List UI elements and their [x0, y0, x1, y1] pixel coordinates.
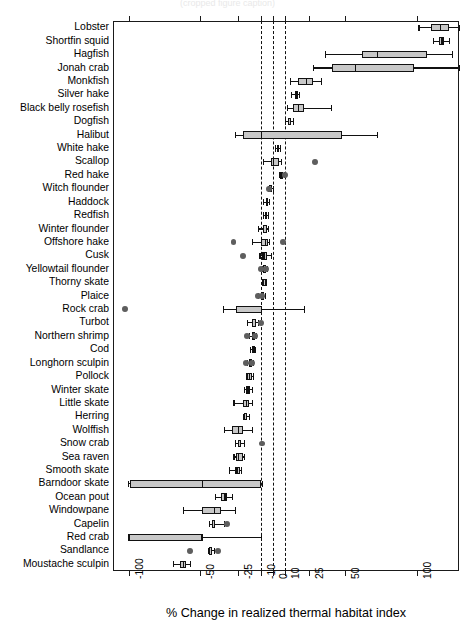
plot-frame — [113, 21, 459, 571]
x-tick-mark--50 — [200, 16, 201, 21]
x-tick-mark-0 — [273, 571, 274, 576]
median-line — [265, 279, 266, 287]
whisker-cap — [252, 427, 253, 433]
y-axis-label-sea-raven: Sea raven — [62, 452, 109, 462]
whisker-cap — [241, 467, 242, 473]
whisker-cap — [235, 440, 236, 446]
median-line — [183, 561, 184, 569]
y-axis-label-winter-skate: Winter skate — [51, 385, 109, 395]
median-line — [261, 131, 262, 139]
whisker-cap — [244, 440, 245, 446]
median-line — [440, 24, 441, 32]
y-axis-label-silver-hake: Silver hake — [58, 89, 109, 99]
median-line — [263, 252, 264, 260]
x-tick-mark--25 — [238, 571, 239, 576]
median-line — [247, 386, 248, 394]
outlier-point — [259, 293, 265, 299]
y-axis-label-little-skate: Little skate — [59, 398, 109, 408]
y-axis-label-pollock: Pollock — [76, 371, 110, 381]
y-axis-label-moustache-sculpin: Moustache sculpin — [23, 559, 109, 569]
x-tick-label--50: -50 — [205, 564, 216, 579]
median-line — [240, 440, 241, 448]
whisker-cap — [233, 400, 234, 406]
whisker-cap — [268, 212, 269, 218]
median-line — [238, 453, 239, 461]
x-tick-mark-25 — [309, 16, 310, 21]
y-axis-label-yellowtail-flounder: Yellowtail flounder — [26, 264, 109, 274]
whisker-cap — [261, 534, 262, 540]
y-axis-label-snow-crab: Snow crab — [60, 438, 109, 448]
whisker-cap — [262, 481, 263, 487]
y-axis-label-longhorn-sculpin: Longhorn sculpin — [30, 358, 109, 368]
y-axis-label-offshore-hake: Offshore hake — [44, 237, 109, 247]
y-axis-label-red-hake: Red hake — [65, 170, 109, 180]
y-axis-label-cod: Cod — [90, 344, 109, 354]
outlier-point — [258, 320, 264, 326]
x-tick-mark-50 — [345, 571, 346, 576]
whisker-cap — [209, 521, 210, 527]
y-axis-label-barndoor-skate: Barndoor skate — [39, 478, 109, 488]
median-line — [246, 413, 247, 421]
median-line — [202, 534, 203, 542]
median-line — [249, 373, 250, 381]
whisker-cap — [287, 105, 288, 111]
whisker-cap — [235, 132, 236, 138]
median-line — [266, 225, 267, 233]
y-axis-label-thorny-skate: Thorny skate — [49, 277, 109, 287]
y-axis-label-monkfish: Monkfish — [67, 76, 109, 86]
median-line — [298, 104, 299, 112]
whisker-cap — [229, 467, 230, 473]
y-axis-label-northern-shrimp: Northern shrimp — [35, 331, 110, 341]
whisker-cap — [331, 105, 332, 111]
y-axis-label-jonah-crab: Jonah crab — [58, 63, 109, 73]
whisker-cap — [449, 38, 450, 44]
whisker-cap — [223, 306, 224, 312]
outlier-point — [266, 186, 272, 192]
y-axis-label-herring: Herring — [75, 411, 109, 421]
whisker-cap — [224, 427, 225, 433]
y-axis-label-haddock: Haddock — [68, 197, 109, 207]
box — [243, 131, 343, 139]
x-tick-label--100: -100 — [134, 558, 145, 579]
median-line — [306, 78, 307, 86]
whisker-cap — [285, 118, 286, 124]
whisker-cap — [235, 507, 236, 513]
y-axis-label-plaice: Plaice — [81, 291, 109, 301]
median-line — [211, 547, 212, 555]
y-axis-label-smooth-skate: Smooth skate — [45, 465, 109, 475]
whisker-cap — [459, 65, 460, 71]
whisker-cap — [263, 159, 264, 165]
whisker-cap — [258, 226, 259, 232]
whisker-cap — [128, 481, 129, 487]
whisker-cap — [291, 92, 292, 98]
x-tick-mark-100 — [417, 571, 418, 576]
y-axis-label-black-belly-rosefish: Black belly rosefish — [20, 103, 109, 113]
whisker-cap — [271, 253, 272, 259]
y-axis-label-dogfish: Dogfish — [74, 116, 109, 126]
whisker-cap — [293, 118, 294, 124]
box — [202, 507, 222, 515]
whisker-cap — [253, 373, 254, 379]
whisker-cap — [232, 494, 233, 500]
box — [236, 306, 262, 314]
y-axis-label-ocean-pout: Ocean pout — [55, 492, 109, 502]
whisker-cap — [313, 65, 314, 71]
whisker-cap — [247, 320, 248, 326]
whisker-cap — [268, 226, 269, 232]
x-tick-label-0: 0 — [278, 573, 289, 579]
whisker-cap — [255, 347, 256, 353]
outlier-point — [280, 239, 286, 245]
whisker-cap — [263, 199, 264, 205]
whisker-cap — [215, 494, 216, 500]
median-line — [224, 493, 225, 501]
whisker-cap — [252, 239, 253, 245]
y-axis-label-lobster: Lobster — [74, 22, 109, 32]
whisker-cap — [183, 507, 184, 513]
x-tick-mark--100 — [129, 571, 130, 576]
box — [332, 64, 414, 72]
outlier-point — [243, 360, 249, 366]
x-tick-label-10: 10 — [290, 567, 301, 579]
median-line — [278, 145, 279, 153]
x-tick-mark-100 — [417, 16, 418, 21]
median-line — [267, 198, 268, 206]
